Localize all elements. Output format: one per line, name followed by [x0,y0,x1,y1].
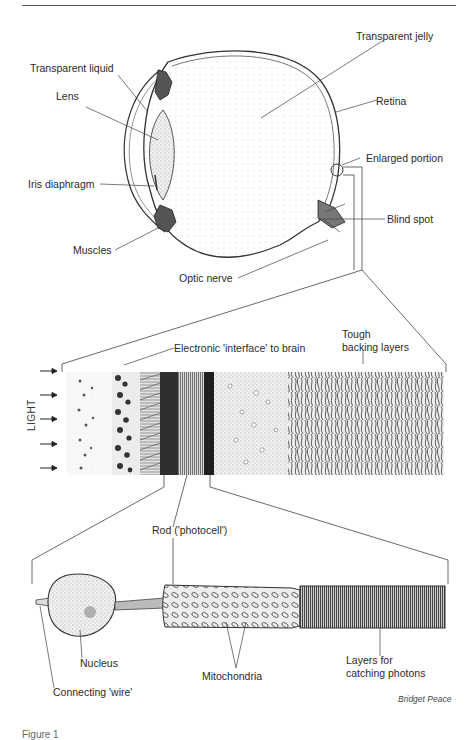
label-tough-line2: backing layers [342,341,409,353]
label-optic-nerve: Optic nerve [179,272,233,284]
label-muscles: Muscles [73,244,112,256]
label-tough-line1: Tough [342,328,371,340]
label-lens: Lens [56,90,79,102]
label-interface: Electronic 'interface' to brain [174,342,305,354]
retina-section [66,372,444,475]
label-layers-line2: catching photons [346,667,425,679]
label-transparent-liquid: Transparent liquid [30,62,114,74]
eyeball [124,51,345,257]
rod-connector-lines [32,475,448,584]
figure-caption: Figure 1 [22,729,59,740]
label-transparent-jelly: Transparent jelly [356,30,433,42]
rod-cell [36,574,445,636]
label-iris-diaphragm: Iris diaphragm [28,178,95,190]
light-arrows [40,369,57,471]
illustrator-credit: Bridget Peace [398,694,451,704]
label-rod: Rod ('photocell') [152,524,227,536]
label-nucleus: Nucleus [80,657,118,669]
label-enlarged-portion: Enlarged portion [366,152,443,164]
label-blind-spot: Blind spot [387,213,433,225]
label-mitochondria: Mitochondria [202,670,262,682]
label-connecting-wire: Connecting 'wire' [53,686,132,698]
label-retina: Retina [376,95,406,107]
label-light: LIGHT [26,399,37,431]
label-layers-line1: Layers for [346,654,393,666]
